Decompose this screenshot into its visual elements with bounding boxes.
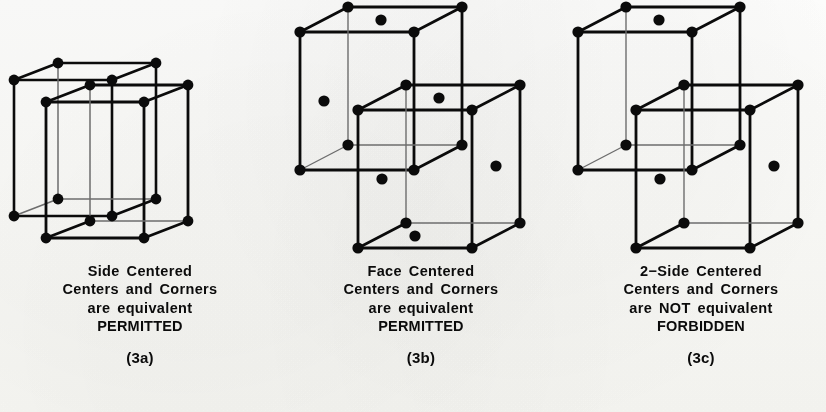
caption-line-3: are equivalent	[282, 299, 560, 317]
caption-line-4: PERMITTED	[282, 317, 560, 335]
figure-row: Side Centered Centers and Corners are eq…	[0, 0, 826, 412]
caption-3c: 2−Side Centered Centers and Corners are …	[566, 262, 826, 366]
caption-line-3: are NOT equivalent	[566, 299, 826, 317]
lattice-diagram-two-side-centered	[560, 0, 826, 262]
figure-label-3b: (3b)	[282, 349, 560, 366]
caption-line-4: FORBIDDEN	[566, 317, 826, 335]
lattice-point-group	[294, 1, 525, 253]
caption-3b: Face Centered Centers and Corners are eq…	[282, 262, 560, 366]
caption-line-4: PERMITTED	[0, 317, 280, 335]
caption-line-1: Face Centered	[282, 262, 560, 280]
caption-line-1: Side Centered	[0, 262, 280, 280]
caption-3a: Side Centered Centers and Corners are eq…	[0, 262, 280, 366]
figure-panel-3b: Face Centered Centers and Corners are eq…	[280, 0, 560, 412]
figure-panel-3a: Side Centered Centers and Corners are eq…	[0, 0, 280, 412]
caption-line-2: Centers and Corners	[566, 280, 826, 298]
lattice-diagram-face-centered	[280, 0, 560, 262]
lattice-diagram-side-centered	[0, 0, 280, 262]
lattice-point-group	[572, 1, 803, 253]
figure-panel-3c: 2−Side Centered Centers and Corners are …	[560, 0, 826, 412]
caption-line-1: 2−Side Centered	[566, 262, 826, 280]
figure-label-3a: (3a)	[0, 349, 280, 366]
caption-line-3: are equivalent	[0, 299, 280, 317]
caption-line-2: Centers and Corners	[282, 280, 560, 298]
caption-line-2: Centers and Corners	[0, 280, 280, 298]
figure-label-3c: (3c)	[566, 349, 826, 366]
